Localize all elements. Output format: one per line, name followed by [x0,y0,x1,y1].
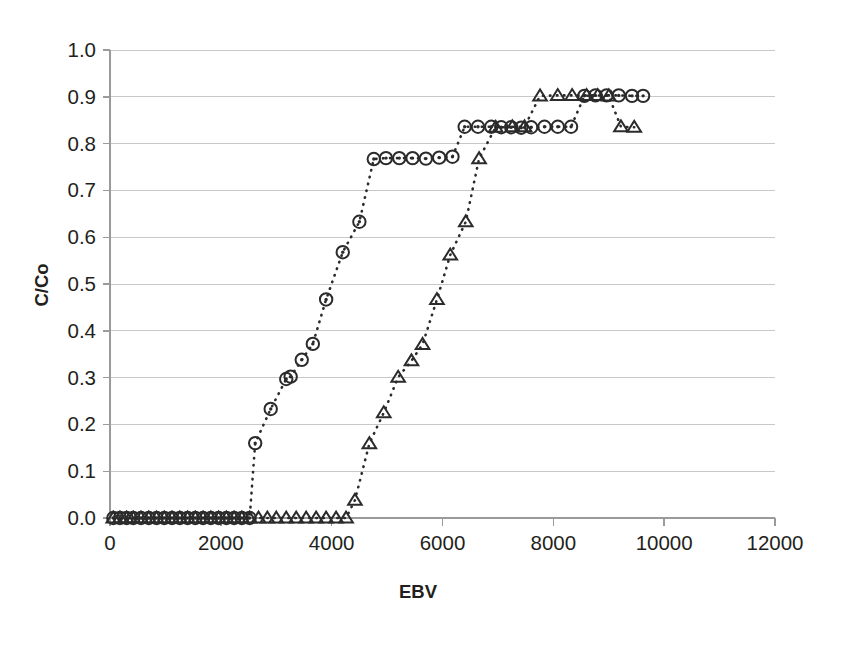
x-tick-label: 12000 [746,531,803,554]
y-tick-label: 1.0 [68,38,97,61]
x-tick-label: 2000 [198,531,244,554]
y-tick-label: 0.7 [68,178,97,201]
y-tick-label: 0.8 [68,132,97,155]
y-tick-label: 0.4 [68,319,97,342]
y-tick-label: 0.1 [68,459,97,482]
x-tick-label: 8000 [531,531,577,554]
x-tick-label: 4000 [309,531,355,554]
y-tick-label: 0.6 [68,225,97,248]
y-tick-label: 0.9 [68,85,97,108]
x-tick-label: 0 [104,531,115,554]
y-tick-label: 0.5 [68,272,97,295]
y-axis-title: C/Co [31,263,52,306]
y-tick-label: 0.0 [68,506,97,529]
x-tick-label: 10000 [636,531,693,554]
x-axis-title: EBV [399,581,438,602]
y-tick-label: 0.2 [68,412,97,435]
y-tick-label: 0.3 [68,366,97,389]
chart-figure: 020004000600080001000012000 0.00.10.20.3… [0,0,841,646]
breakthrough-curve-chart: 020004000600080001000012000 0.00.10.20.3… [0,0,841,646]
x-tick-label: 6000 [420,531,466,554]
